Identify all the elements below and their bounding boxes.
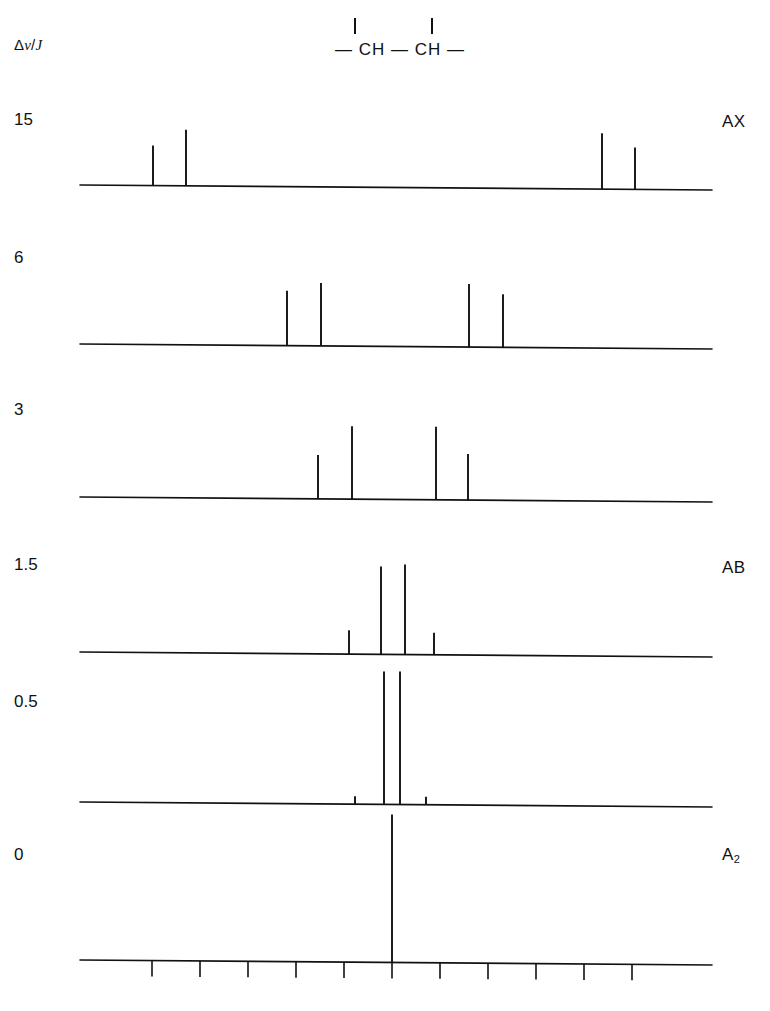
baseline (80, 344, 712, 349)
baseline (80, 497, 712, 502)
nmr-spectra-figure: Δν/J — CH — CH — 15 6 3 1.5 0.5 0 AX AB … (0, 0, 770, 1011)
spectrum-trace-3 (80, 426, 712, 502)
spectrum-trace-15 (80, 130, 712, 190)
spectrum-trace-6 (80, 283, 712, 349)
spectra-traces-svg (0, 0, 770, 1011)
spectrum-trace-0 (80, 814, 712, 980)
baseline (80, 960, 712, 965)
spectrum-trace-1p5 (80, 565, 712, 657)
baseline (80, 185, 712, 190)
baseline (80, 802, 712, 807)
baseline (80, 652, 712, 657)
spectrum-trace-0p5 (80, 671, 712, 807)
